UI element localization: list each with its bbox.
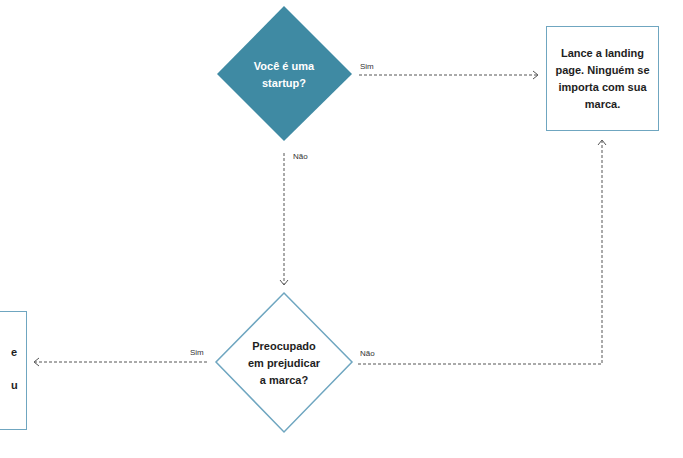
result-left-fragment-1: e xyxy=(11,346,17,358)
edge-startup-no-label: Não xyxy=(293,152,308,161)
decision-brand-line3: a marca? xyxy=(260,372,308,389)
decision-startup-line2: startup? xyxy=(262,75,306,92)
result-left-box xyxy=(0,311,27,430)
decision-startup-label: Você é uma startup? xyxy=(237,56,331,94)
decision-brand-line2: em prejudicar xyxy=(248,355,320,372)
decision-startup-line1: Você é uma xyxy=(254,58,314,75)
result-landing-text: Lance a landing page. Ninguém se importa… xyxy=(547,27,658,130)
decision-brand-line1: Preocupado xyxy=(252,338,316,355)
result-landing-box: Lance a landing page. Ninguém se importa… xyxy=(546,26,659,131)
edge-brand-no-line xyxy=(358,141,602,364)
edge-brand-no-label: Não xyxy=(360,349,375,358)
decision-brand-label: Preocupado em prejudicar a marca? xyxy=(232,336,336,390)
flowchart: Você é uma startup? Preocupado em prejud… xyxy=(0,0,683,458)
result-left-fragment-2: u xyxy=(11,379,18,391)
edge-startup-yes-label: Sim xyxy=(360,62,374,71)
edge-brand-yes-label: Sim xyxy=(190,348,204,357)
